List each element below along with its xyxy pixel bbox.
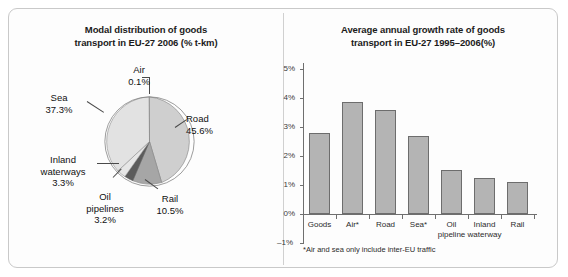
y-tick-2 [300,156,304,157]
pie-label-air: Air 0.1% [112,64,166,87]
x-label-rail-line-1: Rail [511,220,525,229]
x-tick-7 [534,215,535,219]
figure-container: Modal distribution of goods transport in… [8,8,558,268]
leader-line-inland [97,163,119,164]
pie-label-inland-value: 3.3% [52,177,74,188]
pie-label-oil-name-1: Oil [99,191,111,202]
bar-plot-area: 5% 4% 3% 2% 1% 0% –1% [283,9,559,267]
y-tick-label-1: 1% [271,180,295,189]
bar-goods [309,133,330,214]
pie-chart-title: Modal distribution of goods transport in… [31,23,261,49]
x-tick-0 [303,215,304,219]
bar-inland-waterway [474,178,495,214]
pie-title-line-2: transport in EU-27 2006 (% t-km) [74,37,217,48]
x-label-inland-line-2: waterway [468,230,502,239]
x-tick-5 [468,215,469,219]
y-tick-4 [300,98,304,99]
pie-label-sea-value: 37.3% [46,104,73,115]
bar-chart-panel: Average annual growth rate of goods tran… [283,9,559,267]
pie-label-air-name: Air [133,64,145,75]
bar-oil-pipeline [441,170,462,214]
x-label-sea-line-1: Sea* [410,220,427,229]
pie-label-rail-value: 10.5% [157,205,184,216]
pie-title-line-1: Modal distribution of goods [85,24,207,35]
pie-label-sea-name: Sea [51,92,68,103]
pie-label-rail-name: Rail [162,193,178,204]
pie-label-oil-value: 3.2% [94,214,116,225]
x-tick-2 [369,215,370,219]
pie-label-inland-name-2: waterways [41,166,86,177]
pie-label-oil-pipelines: Oil pipelines 3.2% [77,191,133,226]
y-tick-1 [300,185,304,186]
y-tick-3 [300,127,304,128]
x-label-oil-line-1: Oil [447,220,457,229]
x-tick-1 [336,215,337,219]
bar-sea [408,136,429,214]
y-tick-5 [300,69,304,70]
x-label-rail: Rail [492,220,543,230]
pie-label-inland-waterways: Inland waterways 3.3% [28,154,98,189]
pie-label-rail: Rail 10.5% [142,193,198,216]
x-label-air-line-1: Air* [346,220,359,229]
bar-chart-footnote: *Air and sea only include inter-EU traff… [303,245,435,254]
y-tick-label-5: 5% [271,64,295,73]
pie-label-oil-name-2: pipelines [86,203,124,214]
bar-rail [507,182,528,214]
y-tick-label-4: 4% [271,93,295,102]
x-tick-6 [501,215,502,219]
bar-air [342,102,363,214]
pie-label-air-value: 0.1% [128,76,150,87]
y-tick-label-neg1: –1% [269,238,293,247]
y-tick-label-3: 3% [271,122,295,131]
y-tick-neg1 [300,243,304,244]
x-tick-3 [402,215,403,219]
pie-label-road-value: 45.6% [186,125,213,136]
x-tick-4 [435,215,436,219]
pie-label-road-name: Road [186,113,209,124]
bar-road [375,110,396,214]
y-tick-label-0: 0% [271,209,295,218]
y-tick-label-2: 2% [271,151,295,160]
pie-label-inland-name-1: Inland [50,154,76,165]
pie-label-sea: Sea 37.3% [31,92,87,115]
pie-label-road: Road 45.6% [186,113,246,136]
pie-chart-panel: Modal distribution of goods transport in… [9,9,283,267]
